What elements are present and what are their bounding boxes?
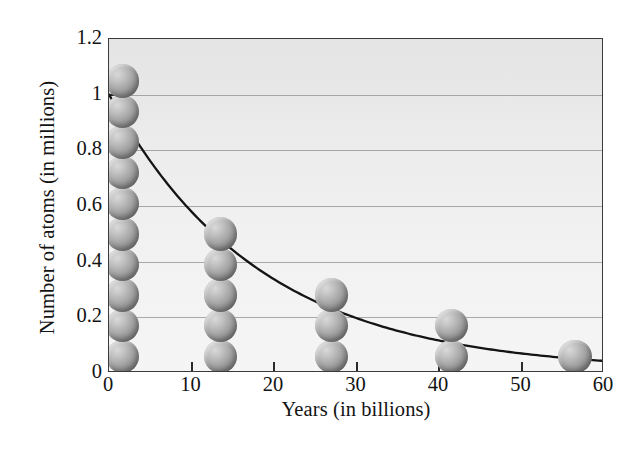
atom-sphere (108, 340, 139, 372)
x-tick-label: 20 (243, 374, 303, 395)
x-axis-title: Years (in billions) (108, 398, 604, 421)
atom-sphere (204, 340, 237, 372)
atom-sphere (108, 125, 139, 158)
atom-sphere (204, 248, 237, 281)
atom-sphere (108, 64, 139, 97)
x-axis-tick-labels: 0102030405060 (0, 0, 637, 451)
decay-chart-figure: Number of atoms (in millions) 00.20.40.6… (0, 0, 637, 451)
x-tick-label: 50 (491, 374, 551, 395)
x-tick-label: 30 (326, 374, 386, 395)
atom-sphere (558, 340, 591, 372)
x-tick-label: 40 (408, 374, 468, 395)
atom-sphere (108, 278, 139, 311)
x-tick-label: 0 (78, 374, 138, 395)
atom-sphere (204, 278, 237, 311)
atom-sphere (435, 340, 468, 372)
atom-sphere (204, 217, 237, 250)
x-tick-label: 60 (573, 374, 633, 395)
atom-sphere (315, 278, 348, 311)
x-tick-label: 10 (161, 374, 221, 395)
atom-sphere (108, 217, 139, 250)
atom-sphere (108, 187, 139, 220)
atom-sphere (315, 340, 348, 372)
